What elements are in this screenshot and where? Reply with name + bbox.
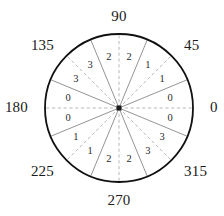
axis-label-270: 270 <box>79 193 159 208</box>
sector-value-10: 1 <box>87 146 92 157</box>
axis-label-135: 135 <box>0 38 54 53</box>
center-marker <box>117 106 122 111</box>
sector-value-15: 0 <box>167 113 172 124</box>
sector-value-2: 1 <box>145 60 150 71</box>
sector-value-12: 2 <box>126 154 131 165</box>
sector-value-13: 3 <box>145 146 150 157</box>
axis-label-315: 315 <box>184 164 207 179</box>
polar-sector-diagram: 04590135180225270315 0112233001122330 <box>0 0 224 216</box>
sector-value-4: 2 <box>106 52 111 63</box>
sector-value-6: 3 <box>73 74 78 85</box>
axis-label-180: 180 <box>0 100 28 115</box>
sector-value-11: 2 <box>106 154 111 165</box>
sector-value-7: 0 <box>65 93 70 104</box>
axis-label-0: 0 <box>210 100 218 115</box>
sector-value-8: 0 <box>65 113 70 124</box>
sector-value-9: 1 <box>73 132 78 143</box>
axis-label-90: 90 <box>79 9 159 24</box>
axis-label-225: 225 <box>0 164 54 179</box>
sector-value-3: 2 <box>126 52 131 63</box>
sector-value-0: 0 <box>167 93 172 104</box>
polar-chart-svg <box>0 0 224 216</box>
sector-value-5: 3 <box>87 60 92 71</box>
axis-label-45: 45 <box>184 38 199 53</box>
sector-value-14: 3 <box>160 132 165 143</box>
sector-value-1: 1 <box>160 74 165 85</box>
